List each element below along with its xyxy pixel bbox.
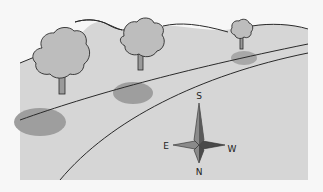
landscape-diagram: S N E W [0,0,323,192]
compass-label-n: N [196,167,203,177]
compass-label-s: S [196,91,202,101]
compass-label-e: E [163,141,169,151]
compass-label-w: W [228,144,237,154]
tree-shadow-left [14,108,66,136]
